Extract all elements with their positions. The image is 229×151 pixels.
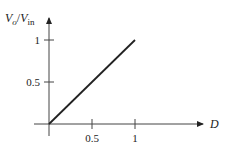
chart: 0.5 1 0.5 1 D Vo/Vin xyxy=(0,0,229,151)
y-axis-label: Vo/Vin xyxy=(5,11,35,27)
data-line xyxy=(49,40,135,124)
x-axis-label: D xyxy=(209,117,219,131)
x-tick-label: 1 xyxy=(132,132,138,144)
y-tick-label: 1 xyxy=(35,34,41,46)
y-tick-label: 0.5 xyxy=(26,76,40,88)
x-tick-label: 0.5 xyxy=(85,132,99,144)
